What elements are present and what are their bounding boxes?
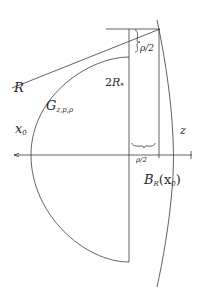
label-B: BR(x0) <box>144 173 181 188</box>
label-2R: 2R* <box>105 77 124 90</box>
label-B-arg: (x <box>159 172 171 187</box>
label-B-main: B <box>144 172 154 187</box>
label-G: Gz,p,ρ <box>46 99 73 114</box>
label-x0-sub: 0 <box>22 129 26 137</box>
brace-horizontal-icon <box>132 143 155 148</box>
line-R <box>12 29 160 88</box>
label-B-close: ) <box>176 172 181 187</box>
label-z: z <box>180 125 186 136</box>
label-G-sub: z,p,ρ <box>56 106 73 114</box>
label-rho-half-bottom: ρ/2 <box>136 157 147 164</box>
label-rho-half-top: ρ/2 <box>140 44 154 53</box>
label-2R-sub: * <box>120 82 124 90</box>
label-2R-num: 2 <box>105 76 112 89</box>
label-G-main: G <box>46 98 56 113</box>
label-R: R <box>14 81 24 94</box>
label-x0: x0 <box>15 122 27 137</box>
ball-arc-B <box>157 20 173 287</box>
diagram-canvas <box>0 0 206 294</box>
